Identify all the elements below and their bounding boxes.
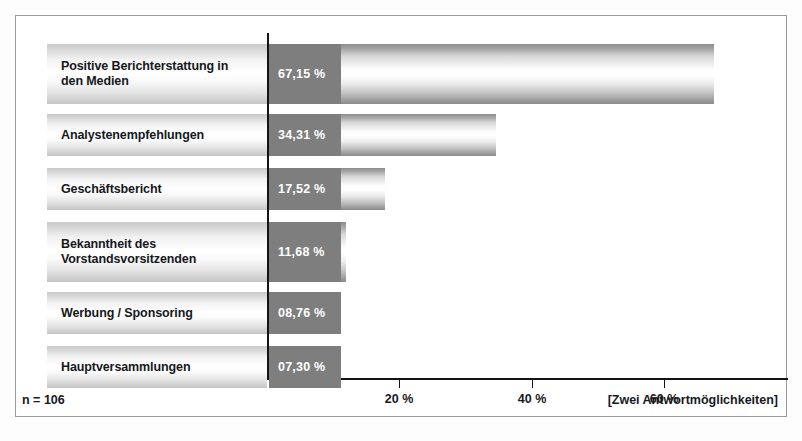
bar: 34,31 % xyxy=(269,114,496,156)
x-axis-tick xyxy=(399,380,400,388)
category-label-band: Geschäftsbericht xyxy=(47,168,267,210)
category-label: Analystenempfehlungen xyxy=(61,128,204,143)
answer-note-label: [Zwei Antwortmöglichkeiten] xyxy=(608,393,778,407)
bar-value-segment: 34,31 % xyxy=(269,114,341,156)
bar: 17,52 % xyxy=(269,168,385,210)
chart-screenshot: 20 %40 %60 % Positive Berichterstattung … xyxy=(0,0,802,441)
category-label: Positive Berichterstattung in den Medien xyxy=(61,59,228,89)
bar-value-label: 08,76 % xyxy=(278,306,325,320)
bar-extent xyxy=(341,44,714,104)
bar: 08,76 % xyxy=(269,292,327,334)
category-label: Bekanntheit des Vorstandsvorsitzenden xyxy=(61,237,196,267)
category-label-band: Hauptversammlungen xyxy=(47,346,267,388)
category-label: Hauptversammlungen xyxy=(61,360,190,375)
bar-value-label: 17,52 % xyxy=(278,182,325,196)
category-label-band: Analystenempfehlungen xyxy=(47,114,267,156)
bar-value-segment: 07,30 % xyxy=(269,346,341,388)
bar-value-segment: 08,76 % xyxy=(269,292,341,334)
bar-value-label: 11,68 % xyxy=(278,245,325,259)
chart-frame: 20 %40 %60 % Positive Berichterstattung … xyxy=(15,15,787,417)
bar-value-segment: 67,15 % xyxy=(269,44,341,104)
x-axis-tick-label: 20 % xyxy=(385,392,414,406)
x-axis-line xyxy=(267,378,788,380)
category-label-band: Positive Berichterstattung in den Medien xyxy=(47,44,267,104)
bar-extent xyxy=(341,168,385,210)
x-axis-tick xyxy=(532,380,533,388)
bar-value-label: 67,15 % xyxy=(278,67,325,81)
category-label: Werbung / Sponsoring xyxy=(61,306,193,321)
category-label: Geschäftsbericht xyxy=(61,182,162,197)
sample-size-label: n = 106 xyxy=(22,393,65,407)
bar: 67,15 % xyxy=(269,44,714,104)
bar-value-segment: 11,68 % xyxy=(269,222,341,282)
bar: 11,68 % xyxy=(269,222,346,282)
x-axis-tick xyxy=(664,380,665,388)
bar-value-segment: 17,52 % xyxy=(269,168,341,210)
category-label-band: Bekanntheit des Vorstandsvorsitzenden xyxy=(47,222,267,282)
x-axis-tick-label: 40 % xyxy=(518,392,547,406)
bar-value-label: 07,30 % xyxy=(278,360,325,374)
category-label-band: Werbung / Sponsoring xyxy=(47,292,267,334)
bar-extent xyxy=(341,222,346,282)
bar-extent xyxy=(341,114,496,156)
plot-area: 20 %40 %60 % Positive Berichterstattung … xyxy=(16,16,786,416)
bar-value-label: 34,31 % xyxy=(278,128,325,142)
bar: 07,30 % xyxy=(269,346,317,388)
